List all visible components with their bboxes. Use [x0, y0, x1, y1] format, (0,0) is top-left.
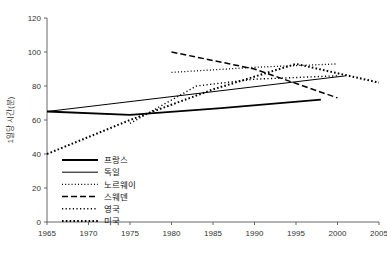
x-tick-label: 1975: [121, 229, 139, 238]
legend-label-미국: 미국: [104, 216, 120, 226]
series-line-독일: [47, 76, 346, 112]
y-tick-label: 20: [32, 184, 41, 193]
legend-label-프랑스: 프랑스: [104, 155, 128, 165]
y-tick-label: 0: [37, 218, 42, 227]
series-line-영국: [130, 76, 338, 124]
y-tick-label: 60: [32, 116, 41, 125]
y-tick-label: 80: [32, 82, 41, 91]
y-tick-label: 100: [28, 48, 42, 57]
x-tick-label: 1970: [80, 229, 98, 238]
legend-label-스웨덴: 스웨덴: [104, 192, 128, 202]
legend-label-영국: 영국: [104, 204, 120, 214]
legend-label-독일: 독일: [104, 167, 120, 177]
x-tick-label: 2000: [329, 229, 347, 238]
x-tick-label: 1985: [204, 229, 222, 238]
x-tick-label: 1965: [38, 229, 56, 238]
legend-label-노르웨이: 노르웨이: [104, 180, 136, 190]
series-line-프랑스: [47, 100, 321, 115]
line-chart: 0204060801001201965197019751980198519901…: [0, 0, 387, 262]
chart-container: 0204060801001201965197019751980198519901…: [0, 0, 387, 262]
y-axis-title: 1일당 시간(분): [5, 96, 15, 143]
y-tick-label: 120: [28, 14, 42, 23]
x-tick-label: 1995: [287, 229, 305, 238]
x-tick-label: 2005: [370, 229, 387, 238]
x-tick-label: 1990: [246, 229, 264, 238]
x-tick-label: 1980: [163, 229, 181, 238]
series-line-스웨덴: [172, 52, 338, 98]
y-tick-label: 40: [32, 150, 41, 159]
